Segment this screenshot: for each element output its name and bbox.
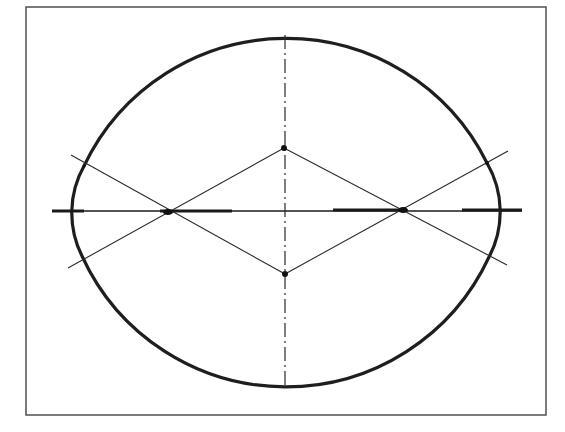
construction-line-upper-left bbox=[71, 155, 285, 274]
center-point-right bbox=[398, 207, 408, 213]
construction-line-lower-left bbox=[68, 148, 284, 268]
tangent-point-upper-right bbox=[485, 161, 489, 165]
oval-outline bbox=[72, 38, 500, 387]
construction-line-upper-right bbox=[285, 151, 508, 274]
center-point-bottom bbox=[282, 271, 288, 277]
center-point-left bbox=[163, 209, 173, 215]
center-point-top bbox=[281, 145, 287, 151]
construction-line-lower-right bbox=[284, 148, 507, 265]
tangent-point-upper-left bbox=[82, 164, 85, 167]
oval-construction-diagram bbox=[0, 0, 565, 432]
